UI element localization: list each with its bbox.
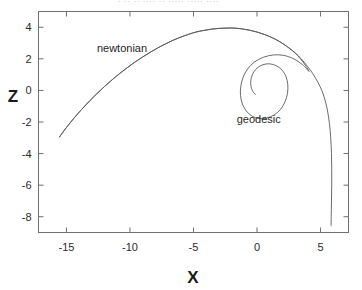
y-tick-label: -4 — [22, 148, 32, 160]
y-tick-label: -6 — [22, 179, 32, 191]
x-tick-label: -5 — [189, 241, 199, 253]
y-tick-label: -8 — [22, 211, 32, 223]
y-axis-title: Z — [8, 87, 18, 106]
x-tick-label: 0 — [254, 241, 260, 253]
axes-border — [39, 12, 349, 233]
x-tick-label: -10 — [122, 241, 138, 253]
y-tick-label: 0 — [25, 84, 31, 96]
figure-container: · ·· ·· ···· ·· ····· ····· ···· -15-10-… — [0, 0, 362, 290]
y-tick-label: 2 — [25, 53, 31, 65]
data-curves — [59, 28, 331, 225]
x-tick-label: -15 — [58, 241, 74, 253]
cropped-caption-fragment: · ·· ·· ···· ·· ····· ····· ···· — [118, 0, 362, 3]
plot-frame — [39, 12, 349, 233]
x-axis-title: X — [187, 268, 199, 287]
y-tick-label: 4 — [25, 21, 31, 33]
annotation-label: geodesic — [237, 113, 282, 125]
curve-annotations: newtoniangeodesic — [97, 42, 281, 125]
chart-svg: -15-10-505 420-2-4-6-8 newtoniangeodesic… — [0, 0, 362, 290]
annotation-label: newtonian — [97, 42, 147, 54]
y-tick-label: -2 — [22, 116, 32, 128]
x-tick-label: 5 — [317, 241, 323, 253]
